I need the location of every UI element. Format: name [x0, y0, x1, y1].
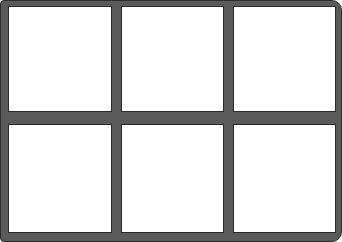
grid-panel-r2-c2[interactable] [121, 124, 224, 233]
grid-panel-r2-c3[interactable] [233, 124, 336, 233]
grid-panel-r2-c1[interactable] [8, 124, 112, 233]
grid-panel-r1-c1[interactable] [8, 6, 112, 112]
grid-panel-r1-c2[interactable] [121, 6, 224, 112]
grid-panel-r1-c3[interactable] [233, 6, 336, 112]
